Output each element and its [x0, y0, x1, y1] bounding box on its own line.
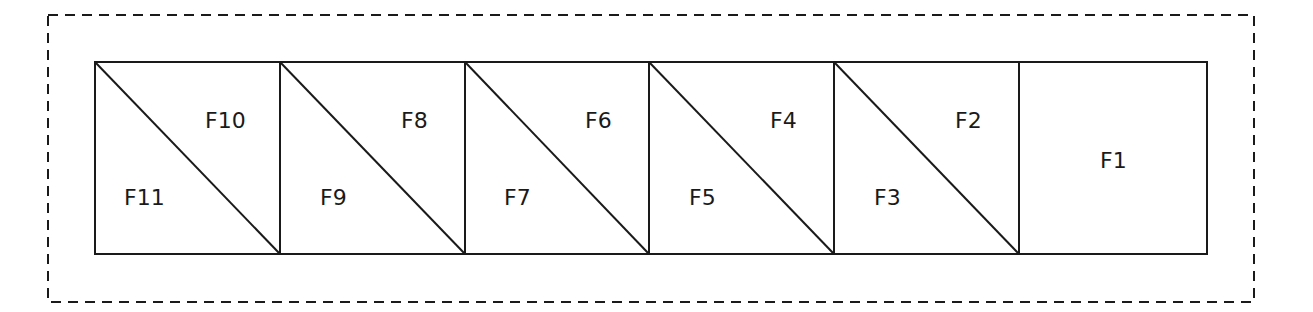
cell-diagonal [95, 62, 280, 254]
cell-lower-label: F11 [124, 185, 165, 210]
cell-lower-label: F5 [689, 185, 716, 210]
cell-upper-label: F8 [401, 108, 428, 133]
dashed-boundary [48, 15, 1254, 302]
cell-diagonal [280, 62, 465, 254]
cell-lower-label: F7 [504, 185, 531, 210]
diagram-canvas: F10 F11 F8 F9 F6 F7 F4 F5 F2 F3 F1 [0, 0, 1313, 312]
cell-upper-label: F6 [585, 108, 612, 133]
cell-lower-label: F3 [874, 185, 901, 210]
cell-upper-label: F4 [770, 108, 797, 133]
cell-diagonal [465, 62, 649, 254]
cell-strip-outline [95, 62, 1207, 254]
cell-label: F1 [1100, 148, 1127, 173]
cell-upper-label: F2 [955, 108, 982, 133]
cell-diagonal [834, 62, 1019, 254]
cell-upper-label: F10 [205, 108, 246, 133]
cell-diagonal [649, 62, 834, 254]
cell-lower-label: F9 [320, 185, 347, 210]
